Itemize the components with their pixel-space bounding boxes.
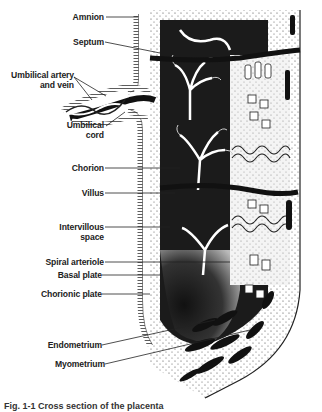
- label-umbilical-cord-line2: cord: [67, 130, 104, 140]
- label-villus: Villus: [82, 188, 104, 198]
- placenta-diagram: Amnion Septum Umbilical artery and vein …: [0, 0, 322, 412]
- label-intervillous-line2: space: [59, 232, 104, 242]
- label-intervillous-space: Intervillous space: [59, 222, 104, 242]
- label-umbilical-cord-line1: Umbilical: [67, 120, 104, 130]
- label-myometrium: Myometrium: [55, 359, 105, 369]
- figure-caption: Fig. 1-1 Cross section of the placenta: [4, 401, 164, 411]
- label-umbilical-artery-line1: Umbilical artery: [11, 70, 74, 80]
- label-endometrium: Endometrium: [48, 340, 102, 350]
- label-septum: Septum: [73, 37, 104, 47]
- placenta-illustration: [0, 0, 322, 412]
- label-amnion: Amnion: [73, 12, 104, 22]
- label-spiral-arteriole: Spiral arteriole: [45, 257, 104, 267]
- label-umbilical-cord: Umbilical cord: [67, 120, 104, 140]
- label-intervillous-line1: Intervillous: [59, 222, 104, 232]
- label-chorion: Chorion: [72, 163, 104, 173]
- label-basal-plate: Basal plate: [58, 270, 102, 280]
- label-umbilical-artery-and-vein: Umbilical artery and vein: [11, 70, 74, 90]
- label-umbilical-artery-line2: and vein: [11, 80, 74, 90]
- label-chorionic-plate: Chorionic plate: [41, 289, 102, 299]
